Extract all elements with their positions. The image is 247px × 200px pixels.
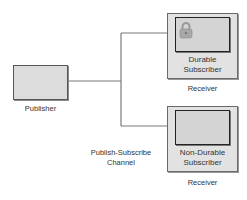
- channel-label: Publish-Subscribe Channel: [80, 148, 162, 168]
- non-durable-subscriber-label: Non-Durable Subscriber: [168, 148, 237, 168]
- channel-label-line2: Channel: [80, 158, 162, 168]
- non-durable-subscriber-line1: Non-Durable: [168, 148, 237, 158]
- non-durable-receiver-box: Non-Durable Subscriber: [167, 106, 238, 172]
- non-durable-subscriber-inner: [175, 110, 230, 145]
- channel-label-line1: Publish-Subscribe: [80, 148, 162, 158]
- durable-receiver-box: Durable Subscriber: [167, 13, 238, 79]
- publisher-label: Publisher: [8, 104, 73, 114]
- durable-receiver-label: Receiver: [167, 84, 238, 94]
- durable-subscriber-label: Durable Subscriber: [168, 55, 237, 75]
- durable-subscriber-line1: Durable: [168, 55, 237, 65]
- durable-subscriber-inner: [175, 17, 230, 52]
- lock-icon: [179, 21, 193, 39]
- durable-subscriber-line2: Subscriber: [168, 65, 237, 75]
- publisher-box: [13, 65, 68, 100]
- non-durable-receiver-label: Receiver: [167, 178, 238, 188]
- non-durable-subscriber-line2: Subscriber: [168, 158, 237, 168]
